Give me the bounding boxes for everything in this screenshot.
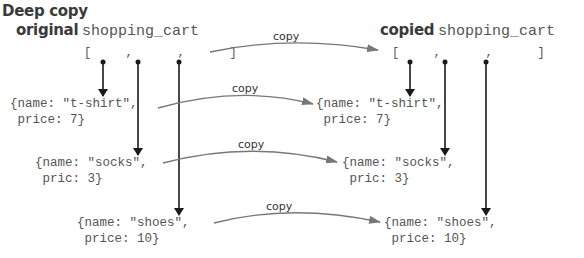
connector-lines bbox=[0, 0, 584, 258]
copy-arrows bbox=[158, 43, 380, 223]
copied-pointer-arrows bbox=[408, 60, 489, 216]
deep-copy-diagram: Deep copy original shopping_cart copied … bbox=[0, 0, 584, 258]
original-pointer-arrows bbox=[101, 60, 182, 216]
